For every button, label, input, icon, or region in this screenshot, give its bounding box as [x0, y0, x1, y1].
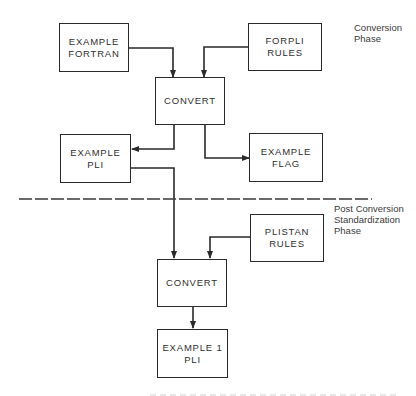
node-label: FORTRAN — [68, 48, 119, 60]
node-label: PLISTAN — [265, 226, 310, 238]
phase-label-conversion: Conversion Phase — [354, 22, 402, 44]
node-example-1-pli: EXAMPLE 1 PLI — [157, 329, 228, 378]
edge-plistan-to-convert2 — [210, 237, 250, 258]
node-example-flag: EXAMPLE FLAG — [249, 133, 323, 182]
edge-forpli-to-convert — [204, 47, 248, 77]
node-example-fortran: EXAMPLE FORTRAN — [59, 23, 129, 72]
node-label: PLI — [87, 159, 104, 171]
edge-convert-to-flag — [205, 125, 249, 158]
node-label: FORPLI — [265, 35, 304, 47]
node-label: RULES — [269, 238, 305, 250]
node-plistan-rules: PLISTAN RULES — [250, 214, 324, 262]
phase-label-line: Conversion — [354, 22, 402, 33]
node-label: EXAMPLE — [69, 36, 119, 48]
phase-label-line: Standardization — [334, 214, 404, 225]
edge-convert-to-pli — [132, 125, 174, 149]
node-label: EXAMPLE — [70, 147, 120, 159]
node-convert-2: CONVERT — [157, 259, 227, 307]
node-label: CONVERT — [166, 277, 218, 289]
phase-label-line: Phase — [354, 33, 402, 44]
node-label: FLAG — [272, 158, 300, 170]
node-forpli-rules: FORPLI RULES — [248, 23, 322, 71]
node-example-pli: EXAMPLE PLI — [60, 134, 131, 183]
node-label: EXAMPLE — [261, 146, 311, 158]
edge-pli-to-convert2 — [131, 168, 174, 258]
diagram-canvas: EXAMPLE FORTRAN FORPLI RULES CONVERT EXA… — [0, 0, 416, 396]
node-label: CONVERT — [164, 95, 216, 107]
node-label: PLI — [184, 354, 201, 366]
node-convert-1: CONVERT — [155, 77, 225, 125]
phase-label-line: Phase — [334, 225, 404, 236]
edge-fortran-to-convert — [129, 48, 173, 77]
phase-label-line: Post Conversion — [334, 203, 404, 214]
node-label: RULES — [267, 47, 303, 59]
phase-label-post-conversion: Post Conversion Standardization Phase — [334, 203, 404, 236]
node-label: EXAMPLE 1 — [162, 342, 222, 354]
